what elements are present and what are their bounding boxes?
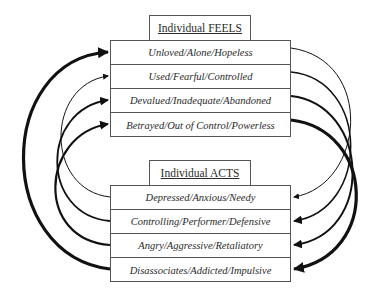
feels-item: Used/Fearful/Controlled	[111, 65, 290, 89]
feels-list: Unloved/Alone/Hopeless Used/Fearful/Cont…	[110, 40, 291, 137]
arrow-feels3-to-acts3	[291, 96, 353, 245]
acts-list: Depressed/Anxious/Needy Controlling/Perf…	[110, 185, 291, 282]
arrow-acts1-to-feels2	[61, 76, 110, 197]
acts-item: Depressed/Anxious/Needy	[111, 186, 290, 210]
arrow-acts4-to-feels1	[23, 52, 110, 269]
acts-title-box: Individual ACTS	[149, 160, 251, 186]
feels-title: Individual FEELS	[158, 22, 242, 34]
acts-item: Disassociates/Addicted/Impulsive	[111, 258, 290, 282]
acts-item: Controlling/Performer/Defensive	[111, 210, 290, 234]
arrow-acts3-to-feels4	[55, 124, 110, 245]
acts-title: Individual ACTS	[161, 167, 240, 179]
feels-item: Devalued/Inadequate/Abandoned	[111, 89, 290, 113]
feels-item: Betrayed/Out of Control/Powerless	[111, 113, 290, 137]
feels-title-box: Individual FEELS	[149, 15, 251, 41]
acts-item: Angry/Aggressive/Retaliatory	[111, 234, 290, 258]
feels-item: Unloved/Alone/Hopeless	[111, 41, 290, 65]
